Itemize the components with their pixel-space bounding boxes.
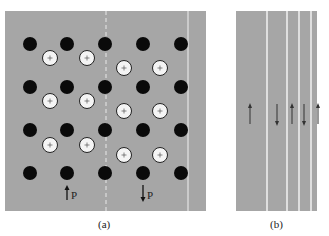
- domain-diagram: [0, 0, 329, 236]
- polarization-label-down: P: [147, 189, 153, 201]
- caption-a: (a): [98, 218, 110, 230]
- polarization-label-up: P: [71, 189, 77, 201]
- caption-b: (b): [270, 218, 283, 230]
